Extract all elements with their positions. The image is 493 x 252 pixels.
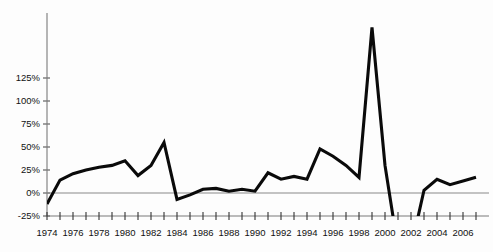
- y-axis-tick-label: 100%: [16, 95, 41, 106]
- x-axis-tick-label: 2002: [400, 227, 421, 238]
- line-chart: -25%0%25%50%75%100%125% 1974197619781980…: [0, 0, 493, 252]
- x-axis-tick-label: 2006: [452, 227, 473, 238]
- x-axis-tick-label: 1976: [62, 227, 83, 238]
- x-axis-tick-label: 1988: [218, 227, 239, 238]
- data-series-line: [47, 27, 476, 248]
- y-axis-tick-label: 0%: [26, 187, 40, 198]
- x-axis-tick-labels: 1974197619781980198219841986198819901992…: [36, 227, 473, 238]
- x-axis-tick-label: 1974: [36, 227, 57, 238]
- y-axis-tick-label: 50%: [21, 141, 41, 152]
- y-axis-tick-label: 25%: [21, 164, 41, 175]
- x-axis-tick-label: 1986: [192, 227, 213, 238]
- x-axis-tick-label: 1978: [88, 227, 109, 238]
- x-axis-tick-label: 1996: [322, 227, 343, 238]
- x-axis-tick-label: 1982: [140, 227, 161, 238]
- x-axis-tick-label: 2004: [426, 227, 447, 238]
- chart-container: -25%0%25%50%75%100%125% 1974197619781980…: [0, 0, 493, 252]
- x-axis-tick-label: 1992: [270, 227, 291, 238]
- y-axis-tick-label: 75%: [21, 118, 41, 129]
- x-axis-tick-label: 1984: [166, 227, 187, 238]
- x-axis-tick-label: 1998: [348, 227, 369, 238]
- y-axis-tick-label: -25%: [18, 210, 41, 221]
- y-axis-tick-label: 125%: [16, 72, 41, 83]
- x-axis-tick-label: 2000: [374, 227, 395, 238]
- x-axis-tick-label: 1980: [114, 227, 135, 238]
- x-axis-tick-label: 1994: [296, 227, 317, 238]
- plot-area: [47, 27, 476, 248]
- x-axis-tick-label: 1990: [244, 227, 265, 238]
- y-axis-tick-labels: -25%0%25%50%75%100%125%: [16, 72, 41, 221]
